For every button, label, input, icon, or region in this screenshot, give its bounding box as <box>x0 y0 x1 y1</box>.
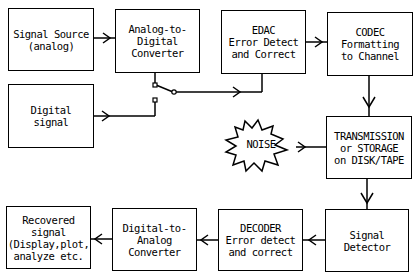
block-label: EDAC Error Detect and Correct <box>229 24 299 60</box>
block-label: Digital-to- Analog Converter <box>122 222 186 258</box>
block-label: Digital signal <box>31 104 72 128</box>
block-label: CODEC Formatting to Channel <box>341 26 399 62</box>
block-signal-detector: Signal Detector <box>325 209 409 272</box>
block-label: Signal Source (analog) <box>13 28 89 52</box>
block-signal-source: Signal Source (analog) <box>8 8 94 71</box>
block-edac: EDAC Error Detect and Correct <box>221 10 306 74</box>
noise-label: NOISE <box>246 138 275 150</box>
block-label: DECODER Error detect and correct <box>226 222 296 258</box>
block-decoder: DECODER Error detect and correct <box>218 209 303 271</box>
block-label: Recovered signal (Display,plot, analyze … <box>8 214 90 262</box>
switch-contact-bottom <box>153 98 157 102</box>
block-transmission: TRANSMISSION or STORAGE on DISK/TAPE <box>326 116 412 179</box>
block-label: Signal Detector <box>344 229 391 253</box>
block-codec: CODEC Formatting to Channel <box>327 12 413 76</box>
switch-pivot <box>172 90 176 94</box>
block-dac: Digital-to- Analog Converter <box>112 208 197 271</box>
noise-burst: NOISE <box>228 126 294 162</box>
block-digital-signal: Digital signal <box>8 84 94 148</box>
block-label: Analog-to- Digital Converter <box>128 23 186 59</box>
block-recovered-signal: Recovered signal (Display,plot, analyze … <box>6 206 91 269</box>
block-label: TRANSMISSION or STORAGE on DISK/TAPE <box>334 130 404 166</box>
block-adc: Analog-to- Digital Converter <box>115 9 200 73</box>
switch-contact-top <box>153 83 157 87</box>
